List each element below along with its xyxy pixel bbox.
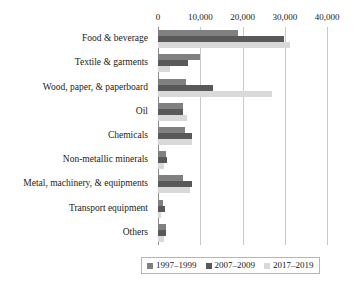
category-label: Metal, machinery, & equipments — [23, 178, 148, 189]
x-tick-label: 10,000 — [188, 11, 213, 23]
category-label: Oil — [136, 106, 148, 117]
bar-group — [158, 221, 327, 245]
bar — [158, 187, 190, 193]
category-label: Food & beverage — [82, 33, 148, 44]
bar — [158, 91, 272, 97]
y-axis-category-labels: Food & beverageTextile & garmentsWood, p… — [0, 27, 153, 245]
legend-swatch-icon — [147, 263, 153, 269]
legend-entry: 2007–2009 — [206, 260, 256, 271]
x-tick-label: 20,000 — [230, 11, 255, 23]
category-label: Textile & garments — [75, 57, 148, 68]
bar-group — [158, 27, 327, 51]
bar-group — [158, 75, 327, 99]
plot-area — [158, 27, 327, 245]
category-label: Wood, paper, & paperboard — [43, 82, 148, 93]
bar — [158, 66, 170, 72]
bar — [158, 42, 290, 48]
legend-label: 2007–2009 — [215, 260, 256, 271]
horizontal-grouped-bar-chart: 010,00020,00030,00040,000 Food & beverag… — [0, 0, 354, 288]
chart-legend: 1997–19992007–20092017–2019 — [141, 257, 320, 274]
category-label: Chemicals — [108, 130, 148, 141]
category-label: Transport equipment — [69, 203, 148, 214]
bar-group — [158, 172, 327, 196]
bar-groups — [158, 27, 327, 245]
bar-group — [158, 51, 327, 75]
legend-entry: 1997–1999 — [147, 260, 197, 271]
x-axis-tick-labels: 010,00020,00030,00040,000 — [0, 11, 354, 25]
legend-swatch-icon — [264, 263, 270, 269]
legend-label: 2017–2019 — [273, 260, 314, 271]
x-tick-label: 40,000 — [315, 11, 340, 23]
category-label: Non-metallic minerals — [63, 154, 148, 165]
bar-group — [158, 197, 327, 221]
bar — [158, 236, 164, 242]
bar-group — [158, 124, 327, 148]
legend-swatch-icon — [206, 263, 212, 269]
bar — [158, 139, 192, 145]
category-label: Others — [123, 227, 148, 238]
bar-group — [158, 100, 327, 124]
legend-label: 1997–1999 — [156, 260, 197, 271]
bar — [158, 163, 164, 169]
bar — [158, 212, 161, 218]
legend-entry: 2017–2019 — [264, 260, 314, 271]
bar-group — [158, 148, 327, 172]
gridline — [327, 27, 328, 245]
bar — [158, 115, 187, 121]
x-tick-label: 0 — [156, 11, 161, 23]
x-tick-label: 30,000 — [272, 11, 297, 23]
